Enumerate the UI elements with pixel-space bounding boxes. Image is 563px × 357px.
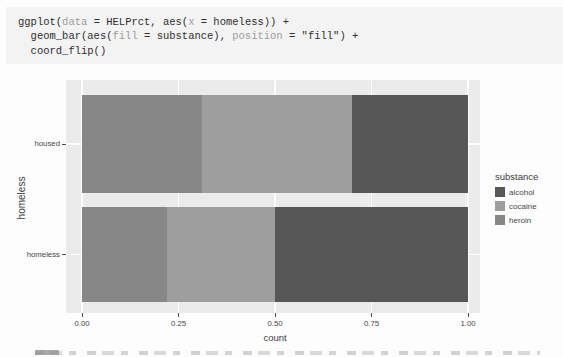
code-token: coord_flip() (18, 45, 106, 57)
legend-label: cocaine (509, 202, 537, 211)
legend: substance alcoholcocaineheroin (495, 171, 563, 229)
y-tick-mark (62, 144, 66, 145)
clipped-caption-line (35, 351, 540, 355)
x-tick-label: 0.00 (65, 319, 99, 328)
heroin-color-swatch (495, 215, 505, 225)
legend-entry-alcohol: alcohol (495, 187, 563, 197)
clipped-caption-lead-word (35, 350, 59, 355)
code-token: fill (113, 30, 138, 42)
x-tick-mark (371, 313, 372, 317)
bar-segment-homeless-alcohol (275, 207, 468, 302)
legend-title: substance (495, 171, 563, 182)
x-tick-mark (275, 313, 276, 317)
x-tick-label: 0.75 (355, 319, 389, 328)
y-tick-label: housed (2, 139, 60, 148)
bar-segment-homeless-cocaine (167, 207, 275, 302)
code-token: ggplot( (18, 16, 62, 28)
ggplot-chart: 0.000.250.500.751.00housedhomeless homel… (0, 70, 563, 345)
code-token: position (232, 30, 282, 42)
x-tick-mark (82, 313, 83, 317)
bar-segment-housed-alcohol (352, 95, 468, 193)
alcohol-color-swatch (495, 187, 505, 197)
cocaine-color-swatch (495, 201, 505, 211)
code-line: ggplot(data = HELPrct, aes(x = homeless)… (18, 15, 563, 29)
code-token: geom_bar(aes( (18, 30, 113, 42)
book-page: ggplot(data = HELPrct, aes(x = homeless)… (0, 0, 563, 357)
y-tick-label: homeless (2, 250, 60, 259)
code-token: = substance), (138, 30, 233, 42)
legend-label: heroin (509, 216, 531, 225)
plot-panel (66, 80, 480, 313)
x-tick-label: 0.25 (162, 319, 196, 328)
code-token: = "fill") + (283, 30, 359, 42)
x-tick-mark (468, 313, 469, 317)
code-token: data (62, 16, 87, 28)
x-tick-label: 0.50 (258, 319, 292, 328)
legend-entry-cocaine: cocaine (495, 201, 563, 211)
x-axis-title: count (263, 332, 286, 343)
code-token: = HELPrct, aes( (87, 16, 188, 28)
r-code-block: ggplot(data = HELPrct, aes(x = homeless)… (6, 7, 563, 64)
code-token: = homeless)) + (194, 16, 289, 28)
bar-segment-housed-heroin (82, 95, 202, 193)
legend-entry-heroin: heroin (495, 215, 563, 225)
code-line: coord_flip() (18, 44, 563, 58)
legend-label: alcohol (509, 188, 534, 197)
bar-segment-housed-cocaine (202, 95, 353, 193)
x-tick-mark (178, 313, 179, 317)
y-axis-title: homeless (16, 177, 27, 220)
bar-segment-homeless-heroin (82, 207, 167, 302)
x-tick-label: 1.00 (451, 319, 485, 328)
legend-entries: alcoholcocaineheroin (495, 187, 563, 225)
y-tick-mark (62, 254, 66, 255)
code-line: geom_bar(aes(fill = substance), position… (18, 29, 563, 43)
